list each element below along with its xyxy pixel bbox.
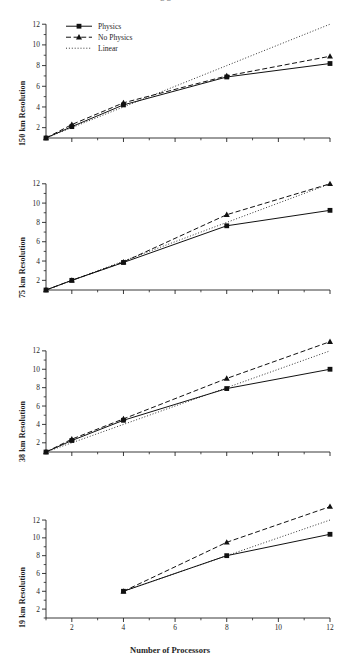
series-physics-line [46, 210, 330, 290]
panel-75km-plot: 24681012 [0, 170, 340, 312]
panel-19km-ylabel: 19 km Resolution [18, 567, 27, 628]
panel-38km-ylabel: 38 km Resolution [18, 401, 27, 462]
y-tick-label: 12 [33, 516, 41, 525]
y-tick-label: 2 [36, 438, 40, 447]
y-tick-label: 6 [36, 569, 40, 578]
y-tick-label: 6 [36, 82, 40, 91]
y-tick-label: 8 [36, 218, 40, 227]
panel-19km: 19 km Resolution 2468101224681012 [0, 484, 340, 640]
y-tick-label: 10 [33, 40, 41, 49]
y-tick-label: 2 [36, 123, 40, 132]
x-tick-label: 6 [173, 623, 177, 632]
panel-75km-ylabel: 75 km Resolution [18, 237, 27, 298]
y-tick-label: 6 [36, 402, 40, 411]
panel-75km: 75 km Resolution 24681012 [0, 170, 340, 312]
x-tick-label: 10 [275, 623, 283, 632]
x-tick-label: 2 [70, 623, 74, 632]
series-linear-line [46, 351, 330, 452]
x-axis-label: Number of Processors [0, 645, 340, 655]
panel-150km-plot: 24681012PhysicsNo PhysicsLinear [0, 12, 340, 160]
triangle-marker [224, 375, 230, 380]
y-tick-label: 4 [36, 587, 40, 596]
y-tick-label: 2 [36, 605, 40, 614]
triangle-marker [327, 504, 333, 509]
legend-label-2: No Physics [98, 33, 132, 42]
figure-container: g g H 150 km Resolution 24681012PhysicsN… [0, 0, 340, 665]
series-no-physics-line [123, 507, 330, 592]
cut-off-title-fragment: g g H [0, 0, 340, 1]
x-tick-label: 4 [122, 623, 126, 632]
y-tick-label: 12 [33, 20, 41, 29]
y-tick-label: 12 [33, 179, 41, 188]
legend-label-3: Linear [98, 44, 118, 53]
y-tick-label: 2 [36, 276, 40, 285]
y-tick-label: 10 [33, 199, 41, 208]
y-tick-label: 8 [36, 383, 40, 392]
series-linear-line [46, 24, 330, 138]
square-marker [328, 208, 333, 213]
panel-38km-plot: 24681012 [0, 322, 340, 474]
panel-150km: 150 km Resolution 24681012PhysicsNo Phys… [0, 12, 340, 160]
y-tick-label: 4 [36, 420, 40, 429]
y-tick-label: 12 [33, 346, 41, 355]
y-tick-label: 10 [33, 533, 41, 542]
square-marker [224, 223, 229, 228]
square-marker [328, 532, 333, 537]
square-marker [328, 61, 333, 66]
y-tick-label: 8 [36, 551, 40, 560]
y-tick-label: 6 [36, 237, 40, 246]
square-marker [224, 386, 229, 391]
y-tick-label: 4 [36, 103, 40, 112]
x-tick-label: 12 [326, 623, 334, 632]
panel-38km: 38 km Resolution 24681012 [0, 322, 340, 474]
y-tick-label: 8 [36, 61, 40, 70]
y-tick-label: 4 [36, 257, 40, 266]
square-marker [224, 553, 229, 558]
panel-150km-ylabel: 150 km Resolution [18, 81, 27, 146]
series-no-physics-line [46, 342, 330, 452]
triangle-marker [327, 181, 333, 186]
triangle-marker [327, 53, 333, 58]
series-physics-line [46, 64, 330, 138]
x-tick-label: 8 [225, 623, 229, 632]
legend-label-1: Physics [98, 22, 121, 31]
legend-square-marker [77, 24, 82, 29]
series-no-physics-line [46, 56, 330, 138]
panel-19km-plot: 2468101224681012 [0, 484, 340, 640]
triangle-marker [327, 339, 333, 344]
square-marker [328, 367, 333, 372]
series-physics-line [46, 369, 330, 452]
y-tick-label: 10 [33, 365, 41, 374]
